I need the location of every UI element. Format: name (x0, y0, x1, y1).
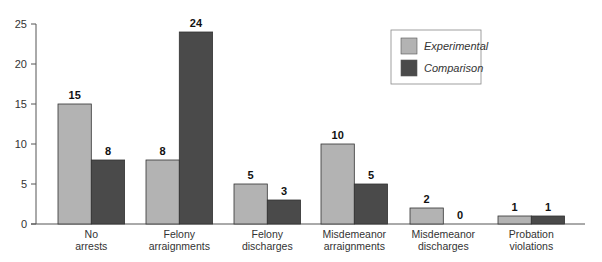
legend: ExperimentalComparison (391, 30, 489, 84)
bar-experimental (58, 104, 91, 224)
legend-label: Experimental (424, 40, 489, 52)
category-label: violations (509, 240, 553, 252)
y-tick-label: 10 (15, 138, 27, 150)
category-label: discharges (418, 240, 469, 252)
legend-swatch (401, 60, 417, 76)
value-label: 5 (248, 169, 254, 181)
category-label: Misdemeanor (322, 228, 386, 240)
category-label: discharges (242, 240, 293, 252)
category-label: arraignments (149, 240, 210, 252)
legend-swatch (401, 38, 417, 54)
bar-comparison (179, 32, 212, 224)
value-label: 1 (512, 201, 518, 213)
category-label: Probation (509, 228, 554, 240)
value-label: 3 (281, 185, 287, 197)
bar-experimental (410, 208, 443, 224)
y-tick-label: 15 (15, 98, 27, 110)
value-label: 8 (160, 145, 166, 157)
value-label: 24 (190, 17, 203, 29)
y-tick-label: 5 (21, 178, 27, 190)
y-tick-label: 0 (21, 218, 27, 230)
bar-comparison (354, 184, 387, 224)
value-label: 15 (69, 89, 81, 101)
bar-experimental (498, 216, 531, 224)
value-label: 10 (332, 129, 344, 141)
bar-chart: 0510152025 158Noarrests824Felonyarraignm… (0, 0, 602, 262)
y-tick-label: 25 (15, 18, 27, 30)
bar-comparison (91, 160, 124, 224)
value-label: 0 (457, 209, 463, 221)
category-label: arrests (75, 240, 107, 252)
category-label: Misdemeanor (411, 228, 475, 240)
category-label: No (85, 228, 99, 240)
category-label: Felony (164, 228, 196, 240)
bars: 158Noarrests824Felonyarraignments53Felon… (58, 17, 565, 252)
bar-comparison (531, 216, 564, 224)
bar-experimental (234, 184, 267, 224)
bar-comparison (267, 200, 300, 224)
value-label: 5 (368, 169, 374, 181)
value-label: 8 (105, 145, 111, 157)
value-label: 2 (424, 193, 430, 205)
bar-experimental (321, 144, 354, 224)
value-label: 1 (545, 201, 551, 213)
bar-experimental (146, 160, 179, 224)
legend-label: Comparison (424, 62, 483, 74)
category-label: Felony (252, 228, 284, 240)
y-tick-label: 20 (15, 58, 27, 70)
category-label: arraignments (324, 240, 385, 252)
